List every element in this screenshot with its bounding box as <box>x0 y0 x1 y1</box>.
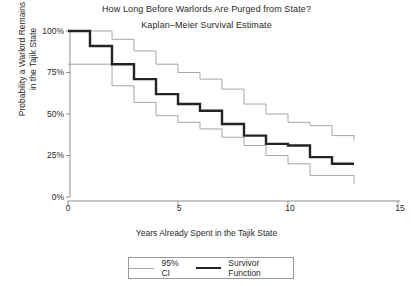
chart-legend: 95% CI Survivor Function <box>128 257 294 279</box>
legend-swatch-survivor-icon <box>196 267 221 269</box>
kaplan-meier-chart: How Long Before Warlords Are Purged from… <box>0 0 413 286</box>
legend-label-survivor: Survivor Function <box>228 258 293 278</box>
series-95-ci-lower <box>68 64 354 184</box>
series-survivor-function <box>68 31 354 164</box>
plot-canvas <box>0 0 413 286</box>
legend-swatch-ci-icon <box>129 268 154 269</box>
x-axis-ticks <box>68 201 398 205</box>
y-axis-ticks <box>66 31 70 197</box>
legend-label-ci: 95% CI <box>161 258 188 278</box>
data-series-layer <box>68 31 354 184</box>
